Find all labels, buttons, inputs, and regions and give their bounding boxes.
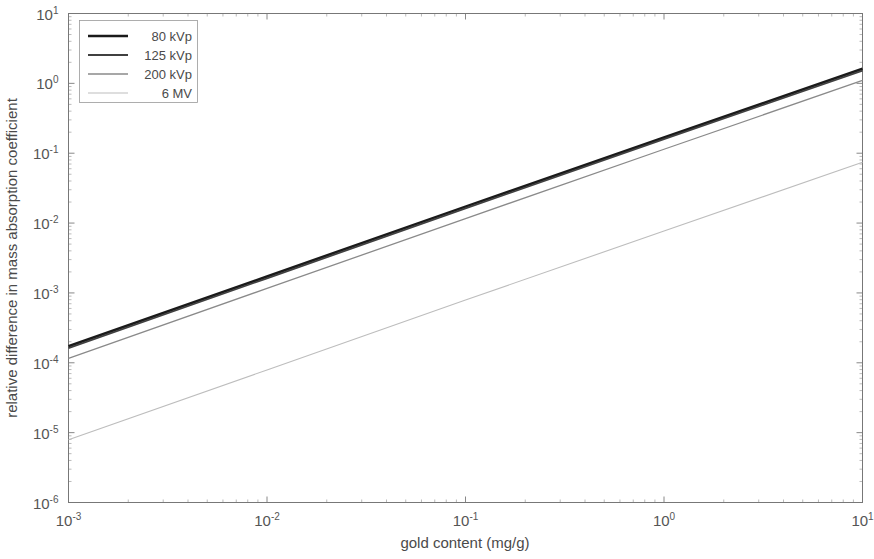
x-axis-tick-labels: 10-310-210-1100101 (56, 511, 874, 529)
data-series-line (69, 162, 863, 439)
y-axis-title: relative difference in mass absorption c… (3, 97, 20, 417)
x-tick-label-4: 101 (851, 511, 874, 529)
data-series-line (69, 80, 863, 358)
y-tick-label-1: 100 (36, 74, 59, 92)
x-tick-label-2: 10-1 (453, 511, 479, 529)
legend-label: 80 kVp (152, 29, 192, 44)
data-series-line (69, 71, 863, 349)
y-tick-label-6: 10-5 (33, 424, 59, 442)
data-series-group (69, 69, 863, 440)
chart-figure: 10-310-210-1100101 10110010-110-210-310-… (0, 0, 874, 559)
x-tick-label-0: 10-3 (56, 511, 82, 529)
y-tick-label-4: 10-3 (33, 284, 59, 302)
legend-label: 6 MV (162, 86, 193, 101)
log-log-plot: 10-310-210-1100101 10110010-110-210-310-… (0, 0, 874, 559)
legend-label: 125 kVp (144, 48, 192, 63)
chart-legend: 80 kVp125 kVp200 kVp6 MV (80, 21, 198, 103)
y-axis-tick-labels: 10110010-110-210-310-410-510-6 (33, 5, 59, 512)
y-tick-label-3: 10-2 (33, 214, 59, 232)
x-axis-title: gold content (mg/g) (400, 534, 529, 551)
y-tick-label-0: 101 (36, 5, 59, 23)
y-tick-label-5: 10-4 (33, 354, 59, 372)
x-tick-label-1: 10-2 (254, 511, 280, 529)
x-tick-label-3: 100 (653, 511, 676, 529)
legend-label: 200 kVp (144, 67, 192, 82)
y-tick-label-7: 10-6 (33, 494, 59, 512)
y-tick-label-2: 10-1 (33, 144, 59, 162)
